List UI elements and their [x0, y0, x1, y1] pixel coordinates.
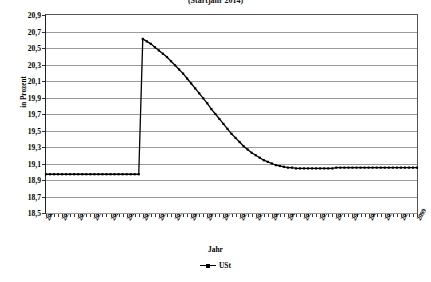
- series-data-point: [404, 167, 406, 169]
- series-data-point: [255, 154, 257, 156]
- series-data-point: [186, 77, 188, 79]
- y-axis-tick-label: 19,3: [3, 143, 41, 152]
- series-data-point: [291, 167, 293, 169]
- series-data-point: [311, 167, 313, 169]
- series-data-point: [138, 173, 140, 175]
- series-data-point: [412, 167, 414, 169]
- series-data-point: [230, 133, 232, 135]
- series-data-point: [206, 102, 208, 104]
- series-data-point: [65, 173, 67, 175]
- series-data-point: [372, 167, 374, 169]
- series-data-point: [109, 173, 111, 175]
- series-data-point: [73, 173, 75, 175]
- series-data-point: [97, 173, 99, 175]
- series-data-point: [238, 141, 240, 143]
- series-data-point: [295, 167, 297, 169]
- series-data-point: [222, 123, 224, 125]
- series-data-point: [210, 108, 212, 110]
- series-data-point: [53, 173, 55, 175]
- gridline: [46, 213, 417, 214]
- series-data-point: [194, 87, 196, 89]
- series-data-point: [134, 173, 136, 175]
- series-data-point: [323, 167, 325, 169]
- y-axis-tick-label: 18,7: [3, 193, 41, 202]
- series-data-point: [355, 167, 357, 169]
- series-data-point: [182, 72, 184, 74]
- series-data-point: [93, 173, 95, 175]
- series-data-point: [49, 173, 51, 175]
- series-data-point: [218, 118, 220, 120]
- series-data-point: [158, 49, 160, 51]
- series-data-point: [170, 60, 172, 62]
- series-data-point: [263, 159, 265, 161]
- series-data-point: [190, 82, 192, 84]
- series-data-point: [166, 56, 168, 58]
- plot-area: [45, 14, 418, 214]
- y-axis-tick-label: 20,3: [3, 61, 41, 70]
- series-data-point: [275, 164, 277, 166]
- series-data-point: [150, 43, 152, 45]
- series-data-point: [101, 173, 103, 175]
- series-data-point: [61, 173, 63, 175]
- series-data-point: [85, 173, 87, 175]
- series-data-point: [315, 167, 317, 169]
- series-data-point: [416, 167, 418, 169]
- legend-entry-label: USt: [219, 261, 231, 270]
- series-data-point: [81, 173, 83, 175]
- series-data-point: [162, 53, 164, 55]
- series-data-point: [400, 167, 402, 169]
- series-data-point: [299, 167, 301, 169]
- series-data-point: [77, 173, 79, 175]
- y-axis-tick-label: 19,5: [3, 127, 41, 136]
- series-data-point: [303, 167, 305, 169]
- series-data-point: [130, 173, 132, 175]
- series-data-point: [154, 46, 156, 48]
- series-data-point: [376, 167, 378, 169]
- series-data-point: [359, 167, 361, 169]
- chart-title: (Startjahr 2014): [0, 0, 431, 5]
- chart-legend: USt: [0, 261, 431, 270]
- series-data-point: [339, 167, 341, 169]
- y-axis-tick-label: 20,7: [3, 28, 41, 37]
- series-data-point: [347, 167, 349, 169]
- y-axis-tick-label: 20,5: [3, 44, 41, 53]
- series-data-point: [178, 68, 180, 70]
- series-data-point: [368, 167, 370, 169]
- series-data-point: [267, 161, 269, 163]
- y-axis-tick-label: 20,9: [3, 11, 41, 20]
- series-data-point: [226, 128, 228, 130]
- y-axis-tick-label: 19,9: [3, 94, 41, 103]
- series-data-point: [69, 173, 71, 175]
- series-data-point: [122, 173, 124, 175]
- series-data-point: [363, 167, 365, 169]
- series-data-point: [287, 167, 289, 169]
- series-data-point: [45, 173, 47, 175]
- series-data-point: [117, 173, 119, 175]
- series-data-point: [331, 167, 333, 169]
- series-data-point: [408, 167, 410, 169]
- series-data-point: [396, 167, 398, 169]
- series-data-point: [57, 173, 59, 175]
- legend-line-square-marker-icon: [200, 262, 216, 269]
- series-data-point: [234, 137, 236, 139]
- series-data-point: [319, 167, 321, 169]
- series-data-point: [214, 113, 216, 115]
- series-data-point: [351, 167, 353, 169]
- series-data-point: [243, 145, 245, 147]
- series-data-point: [89, 173, 91, 175]
- series-data-point: [392, 167, 394, 169]
- series-data-point: [142, 38, 144, 40]
- y-axis-tick-label: 18,9: [3, 176, 41, 185]
- series-data-point: [327, 167, 329, 169]
- series-data-point: [146, 40, 148, 42]
- series-data-point: [174, 64, 176, 66]
- series-data-point: [126, 173, 128, 175]
- x-axis-title: Jahr: [0, 245, 431, 254]
- series-line: [46, 39, 417, 174]
- series-data-point: [279, 165, 281, 167]
- chart-root: (Startjahr 2014) in Prozent 20,920,720,5…: [0, 0, 431, 282]
- series-data-point: [198, 92, 200, 94]
- series-ust-line: [46, 15, 417, 213]
- series-data-point: [271, 162, 273, 164]
- series-data-point: [335, 167, 337, 169]
